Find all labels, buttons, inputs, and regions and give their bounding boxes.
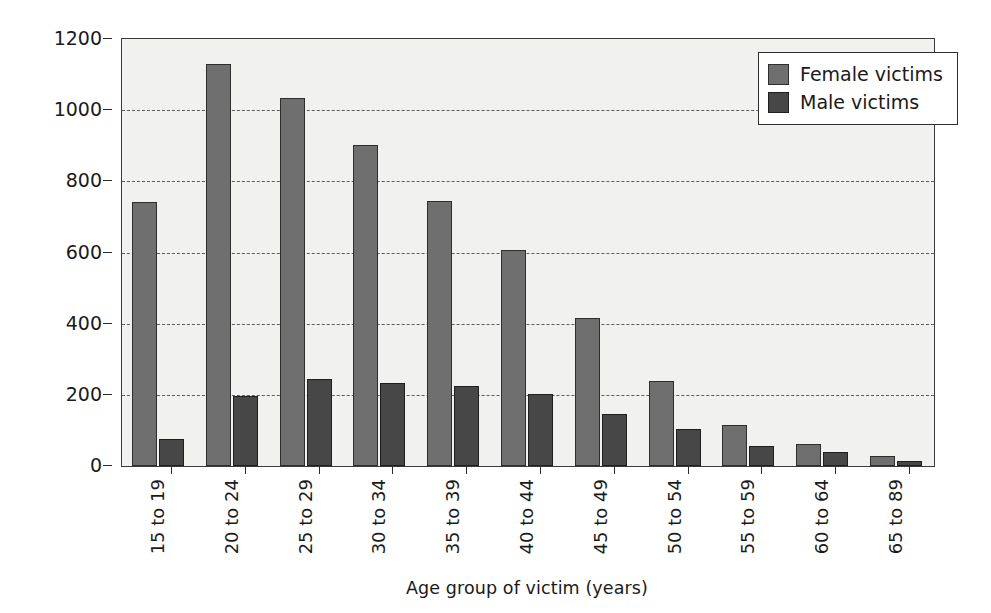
- female-swatch-icon: [768, 64, 789, 85]
- y-tick-mark: [103, 465, 112, 466]
- x-tick-label: 55 to 59: [737, 479, 759, 575]
- x-tick-mark: [835, 465, 836, 474]
- y-tick-mark: [103, 180, 112, 181]
- x-tick-label: 45 to 49: [590, 479, 612, 575]
- bar-male[interactable]: [823, 452, 848, 466]
- y-tick-label: 400: [66, 312, 102, 334]
- x-tick-mark: [171, 465, 172, 474]
- bar-group: [206, 39, 258, 466]
- legend-item-female[interactable]: Female victims: [768, 60, 943, 88]
- bar-group: [427, 39, 479, 466]
- x-tick-label: 35 to 39: [442, 479, 464, 575]
- x-tick-label: 20 to 24: [221, 479, 243, 575]
- bar-female[interactable]: [206, 64, 231, 466]
- y-tick-label: 1200: [54, 27, 102, 49]
- bar-male[interactable]: [676, 429, 701, 466]
- bar-group: [353, 39, 405, 466]
- bar-chart-figure: Rate per 100 000 population 020040060080…: [0, 0, 991, 613]
- bar-female[interactable]: [427, 201, 452, 466]
- y-axis-ticks: 020040060080010001200: [26, 38, 112, 465]
- y-tick-mark: [103, 323, 112, 324]
- bar-group: [280, 39, 332, 466]
- bar-female[interactable]: [575, 318, 600, 466]
- y-tick-label: 1000: [54, 98, 102, 120]
- bar-male[interactable]: [528, 394, 553, 466]
- bar-group: [501, 39, 553, 466]
- y-tick-label: 200: [66, 383, 102, 405]
- y-tick-label: 0: [90, 454, 102, 476]
- y-tick-label: 800: [66, 169, 102, 191]
- x-tick-mark: [392, 465, 393, 474]
- legend-label-female: Female victims: [800, 63, 943, 85]
- bar-female[interactable]: [649, 381, 674, 466]
- x-tick-label: 30 to 34: [368, 479, 390, 575]
- male-swatch-icon: [768, 92, 789, 113]
- bar-male[interactable]: [749, 446, 774, 466]
- x-axis-title: Age group of victim (years): [121, 578, 933, 598]
- x-tick-label: 25 to 29: [295, 479, 317, 575]
- bar-group: [132, 39, 184, 466]
- bar-female[interactable]: [870, 456, 895, 466]
- bar-male[interactable]: [159, 439, 184, 466]
- bar-male[interactable]: [454, 386, 479, 466]
- y-tick-label: 600: [66, 241, 102, 263]
- chart-legend: Female victims Male victims: [758, 52, 958, 125]
- x-tick-mark: [614, 465, 615, 474]
- legend-item-male[interactable]: Male victims: [768, 88, 943, 116]
- x-tick-mark: [688, 465, 689, 474]
- bar-group: [575, 39, 627, 466]
- y-tick-mark: [103, 252, 112, 253]
- y-tick-mark: [103, 394, 112, 395]
- x-tick-label: 65 to 89: [885, 479, 907, 575]
- bar-female[interactable]: [280, 98, 305, 466]
- bar-female[interactable]: [501, 250, 526, 466]
- bar-female[interactable]: [722, 425, 747, 466]
- x-tick-label: 15 to 19: [147, 479, 169, 575]
- x-tick-mark: [245, 465, 246, 474]
- x-tick-mark: [540, 465, 541, 474]
- bar-female[interactable]: [796, 444, 821, 466]
- y-tick-mark: [103, 109, 112, 110]
- bar-male[interactable]: [233, 396, 258, 466]
- x-tick-label: 50 to 54: [664, 479, 686, 575]
- x-tick-mark: [909, 465, 910, 474]
- x-tick-mark: [761, 465, 762, 474]
- bar-male[interactable]: [307, 379, 332, 466]
- bar-female[interactable]: [132, 202, 157, 466]
- bar-male[interactable]: [602, 414, 627, 466]
- x-tick-mark: [319, 465, 320, 474]
- bar-group: [649, 39, 701, 466]
- x-tick-label: 40 to 44: [516, 479, 538, 575]
- bar-female[interactable]: [353, 145, 378, 466]
- legend-label-male: Male victims: [800, 91, 919, 113]
- bar-male[interactable]: [380, 383, 405, 466]
- x-tick-mark: [466, 465, 467, 474]
- y-tick-mark: [103, 38, 112, 39]
- x-tick-label: 60 to 64: [811, 479, 833, 575]
